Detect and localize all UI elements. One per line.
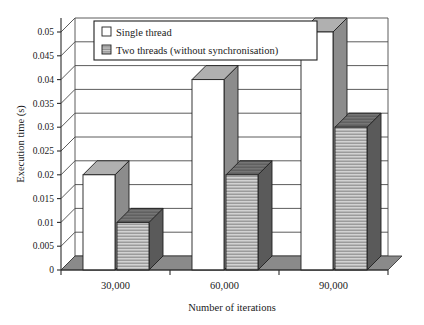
y-tick-label: 0.035 — [33, 99, 55, 109]
chart-container: 00.0050.010.0150.020.0250.030.0350.040.0… — [0, 0, 424, 325]
y-tick-label: 0.025 — [33, 146, 55, 156]
y-tick-label: 0.03 — [37, 122, 54, 132]
y-tick-label: 0.05 — [37, 27, 54, 37]
y-tick-label: 0.045 — [33, 51, 55, 61]
legend-swatch-single-thread — [102, 27, 111, 36]
y-tick-label: 0 — [49, 265, 54, 275]
x-tick-label-90000: 90,000 — [319, 280, 348, 291]
bar-chart-3d: 00.0050.010.0150.020.0250.030.0350.040.0… — [0, 0, 424, 325]
x-tick-label-30000: 30,000 — [101, 280, 130, 291]
y-axis-ticks: 00.0050.010.0150.020.0250.030.0350.040.0… — [33, 27, 61, 275]
y-tick-label: 0.02 — [37, 170, 54, 180]
x-tick-label-60000: 60,000 — [210, 280, 239, 291]
legend-label-single-thread: Single thread — [116, 27, 172, 38]
y-axis-title: Execution time (s) — [15, 105, 27, 183]
y-tick-label: 0.005 — [33, 241, 55, 251]
y-tick-label: 0.04 — [37, 75, 54, 85]
legend: Single thread Two threads (without synch… — [94, 21, 317, 60]
x-axis-title: Number of iterations — [188, 302, 275, 313]
x-axis-ticks: 30,00060,00090,000 — [61, 270, 388, 291]
y-tick-label: 0.01 — [37, 218, 54, 228]
bar-two-threads-60000 — [226, 161, 272, 270]
bar-two-threads-30000 — [117, 208, 163, 270]
legend-swatch-two-threads — [102, 45, 111, 54]
legend-label-two-threads: Two threads (without synchronisation) — [116, 45, 279, 57]
bar-two-threads-90000 — [335, 113, 381, 270]
y-tick-label: 0.015 — [33, 194, 55, 204]
